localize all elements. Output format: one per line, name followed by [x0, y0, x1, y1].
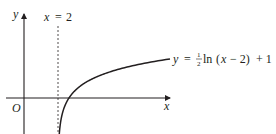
svg-text:=: =: [55, 10, 62, 24]
svg-text:− 2): − 2): [227, 52, 250, 66]
svg-text:2: 2: [66, 10, 72, 24]
x-axis-label: x: [163, 99, 170, 113]
svg-text:x: x: [220, 52, 227, 66]
svg-text:y: y: [172, 52, 179, 66]
svg-text:(: (: [216, 52, 220, 66]
svg-text:x: x: [43, 10, 50, 24]
origin-label: O: [12, 101, 21, 115]
graph-figure: y x O x = 2 y = 1 2 ln ( x − 2) + 1: [0, 0, 276, 134]
log-curve: [59, 59, 170, 134]
svg-text:+ 1: + 1: [256, 52, 272, 66]
svg-text:=: =: [184, 52, 191, 66]
svg-text:1: 1: [197, 51, 201, 59]
asymptote-label: x = 2: [43, 10, 72, 24]
svg-text:ln: ln: [203, 52, 212, 66]
y-axis-label: y: [12, 7, 19, 21]
curve-equation-label: y = 1 2 ln ( x − 2) + 1: [172, 51, 272, 68]
svg-text:2: 2: [197, 60, 201, 68]
